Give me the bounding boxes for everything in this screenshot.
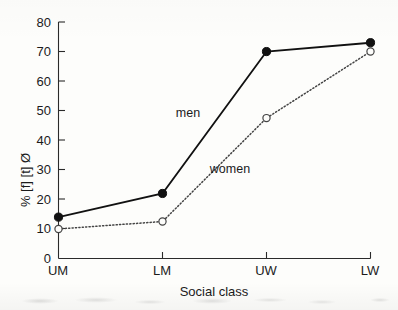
y-axis: [59, 22, 66, 259]
data-point-men-UM: [54, 213, 62, 221]
line-chart-figure: % [f] [t] Ø 80 70 60 50 40 30 20 10 0 UM…: [0, 0, 398, 310]
y-tick-labels: 80 70 60 50 40 30 20 10 0: [37, 15, 51, 266]
x-axis: [59, 252, 371, 259]
series-annotation-men: men: [176, 106, 200, 120]
data-point-men-LW: [366, 39, 374, 47]
x-tick-labels: UM LM UW LW: [48, 263, 380, 278]
y-tick-label: 50: [37, 103, 51, 118]
series-annotation-women: women: [209, 162, 250, 176]
y-tick-label: 40: [37, 133, 51, 148]
y-tick-label: 80: [37, 15, 51, 30]
series-line-men: [59, 43, 371, 217]
y-axis-title: % [f] [t] Ø: [18, 153, 33, 207]
data-point-men-UW: [262, 47, 270, 55]
x-tick-label-um: UM: [48, 263, 68, 278]
data-point-women-LW: [367, 48, 374, 55]
data-point-women-UW: [263, 114, 270, 121]
x-tick-label-lw: LW: [361, 263, 380, 278]
y-tick-label: 60: [37, 74, 51, 89]
y-tick-label: 30: [37, 162, 51, 177]
x-tick-label-lm: LM: [153, 263, 171, 278]
data-series-layer: [54, 39, 374, 233]
x-tick-label-uw: UW: [255, 263, 277, 278]
y-tick-label: 20: [37, 192, 51, 207]
data-point-women-LM: [159, 218, 166, 225]
x-axis-title: Social class: [180, 284, 249, 299]
data-point-women-UM: [55, 225, 62, 232]
y-tick-label: 70: [37, 44, 51, 59]
series-line-women: [59, 52, 371, 229]
data-point-men-LM: [158, 189, 166, 197]
y-tick-label: 10: [37, 221, 51, 236]
